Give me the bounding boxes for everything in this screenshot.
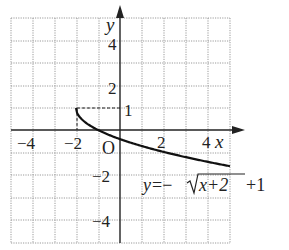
axes <box>11 5 245 243</box>
x-axis-arrow-icon <box>232 126 245 134</box>
equation-equals-minus: =− <box>152 175 172 195</box>
x-tick-minus4: −4 <box>17 134 36 153</box>
y-tick-2: 2 <box>108 79 117 98</box>
equation-y: y <box>141 175 151 195</box>
y-tick-4: 4 <box>108 35 117 54</box>
y-tick-1: 1 <box>124 101 133 120</box>
y-axis-label: y <box>104 14 115 35</box>
function-graph: −4 −2 2 4 4 2 1 −2 −4 O x y y =− x+2 +1 <box>0 0 289 250</box>
x-tick-minus2: −2 <box>64 134 82 153</box>
origin-label: O <box>102 138 115 158</box>
x-tick-2: 2 <box>157 133 166 152</box>
y-tick-minus4: −4 <box>92 212 111 231</box>
equation-radicand: x+2 <box>198 175 228 195</box>
equation-tail: +1 <box>246 175 265 195</box>
y-axis-arrow-icon <box>116 5 124 18</box>
equation-label: y =− x+2 +1 <box>141 174 265 195</box>
y-tick-minus2: −2 <box>92 167 110 186</box>
x-tick-4: 4 <box>202 133 211 152</box>
x-axis-label: x <box>214 131 224 152</box>
